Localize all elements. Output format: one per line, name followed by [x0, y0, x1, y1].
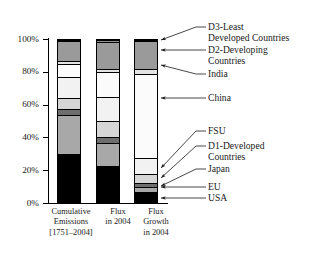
bar-segment-india [135, 69, 157, 74]
y-tick-label-0: 0% [27, 199, 39, 208]
bar-segment-d2-developing-countries [97, 42, 119, 70]
bar-segment-fsu [97, 97, 119, 121]
bar-segment-d1-developed-countries [58, 98, 80, 109]
bar-segment-d1-developed-countries [135, 174, 157, 182]
bar-segment-d3-least-developed-countries [58, 40, 80, 41]
cat2-line2: in 2004 [97, 217, 139, 227]
bar-segment-china [58, 64, 80, 77]
category-label-flux-2004: Flux in 2004 [97, 207, 139, 228]
y-tick-label-100: 100% [18, 35, 39, 44]
bar-segment-d2-developing-countries [135, 41, 157, 69]
bar-segment-china [97, 72, 119, 96]
callout-usa: USA [208, 192, 227, 203]
bar-segment-d1-developed-countries [97, 121, 119, 137]
callout-d3-line1: D3-Least [208, 21, 289, 32]
callout-india: India [208, 68, 228, 79]
cat1-line1: Cumulative [44, 207, 98, 217]
bar-segment-eu [135, 187, 157, 192]
plot-area [48, 39, 164, 203]
y-tick-label-80: 80% [22, 67, 39, 76]
bar-flux-2004 [96, 39, 120, 203]
callout-d2-line1: D2-Developing [208, 44, 268, 55]
bar-segment-eu [97, 143, 119, 166]
bar-segment-d2-developing-countries [58, 41, 80, 61]
bar-segment-usa [97, 166, 119, 202]
callout-china: China [208, 92, 231, 103]
callout-d1-line1: D1-Developed [208, 140, 264, 151]
bar-flux-growth-2004 [134, 39, 158, 203]
cat1-line2: Emissions [44, 217, 98, 227]
cat3-line1: Flux [135, 207, 177, 217]
category-label-flux-growth-2004: Flux Growth in 2004 [135, 207, 177, 238]
callout-japan: Japan [208, 163, 230, 174]
y-tick-label-60: 60% [22, 100, 39, 109]
y-tick-label-20: 20% [22, 166, 39, 175]
bar-cumulative-emissions [57, 39, 81, 203]
stacked-bar-chart-figure: 100% 80% 60% 40% 20% 0% Cumulative Emiss… [0, 0, 315, 260]
cat2-line1: Flux [97, 207, 139, 217]
callout-eu: EU [208, 181, 221, 192]
bar-segment-india [58, 61, 80, 64]
x-axis-line [48, 203, 168, 204]
callout-d2-line2: Countries [208, 55, 268, 66]
bar-segment-usa [135, 192, 157, 202]
bar-segment-usa [58, 154, 80, 202]
callout-d2-developing-countries: D2-Developing Countries [208, 44, 268, 67]
y-tick-label-40: 40% [22, 133, 39, 142]
bar-segment-india [97, 69, 119, 72]
bar-segment-china [135, 74, 157, 158]
callout-fsu: FSU [208, 125, 226, 136]
cat3-line2: Growth [135, 217, 177, 227]
callout-d3-least-developed-countries: D3-Least Developed Countries [208, 21, 289, 44]
callout-d1-developed-countries: D1-Developed Countries [208, 140, 264, 163]
bar-segment-japan [135, 183, 157, 188]
category-label-cumulative-emissions: Cumulative Emissions [1751–2004] [44, 207, 98, 238]
y-tick-mark-0 [43, 203, 48, 204]
bar-segment-japan [58, 109, 80, 115]
bar-segment-eu [58, 115, 80, 155]
callout-d1-line2: Countries [208, 151, 264, 162]
bar-segment-japan [97, 137, 119, 143]
bar-segment-d3-least-developed-countries [97, 40, 119, 42]
cat3-line3: in 2004 [135, 228, 177, 238]
callout-d3-line2: Developed Countries [208, 32, 289, 43]
bar-segment-fsu [135, 158, 157, 174]
bar-segment-d3-least-developed-countries [135, 40, 157, 41]
cat1-line3: [1751–2004] [44, 228, 98, 238]
bar-segment-fsu [58, 77, 80, 97]
